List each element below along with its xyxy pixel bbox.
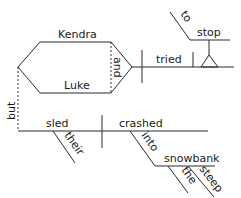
word-their: their	[62, 129, 88, 158]
word-steep: steep	[197, 163, 226, 195]
word-and: and	[111, 57, 124, 78]
sentence-diagram: Kendra Luke and tried to stop but sled t…	[0, 0, 241, 198]
word-snowbank: snowbank	[164, 152, 220, 165]
pedestal-triangle	[201, 55, 218, 67]
word-crashed: crashed	[119, 117, 163, 130]
word-stop: stop	[197, 26, 221, 39]
word-luke: Luke	[64, 79, 90, 92]
word-kendra: Kendra	[58, 28, 97, 41]
word-tried: tried	[156, 53, 182, 66]
word-but: but	[5, 101, 18, 120]
word-the: the	[179, 164, 200, 186]
word-into: into	[139, 129, 162, 154]
word-sled: sled	[46, 117, 69, 130]
word-to: to	[178, 8, 195, 25]
